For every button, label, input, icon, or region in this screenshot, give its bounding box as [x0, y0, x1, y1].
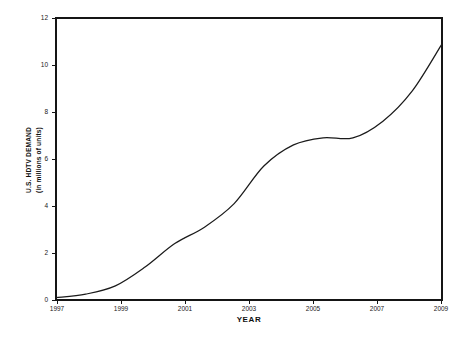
y-tick-label-4: 4 — [44, 202, 48, 209]
y-tick-label-2: 2 — [44, 249, 48, 256]
x-tick-label-2001: 2001 — [178, 305, 193, 312]
data-series-group — [56, 44, 442, 298]
x-tick-label-1997: 1997 — [50, 305, 65, 312]
y-tick-label-0: 0 — [44, 296, 48, 303]
x-tick-label-2009: 2009 — [434, 305, 449, 312]
chart-figure: 0 2 4 6 8 10 12 1997 1999 2001 2003 2005… — [0, 0, 470, 337]
y-axis-title-line-1: U.S. HDTV DEMAND — [25, 127, 32, 193]
y-tick-label-10: 10 — [41, 61, 49, 68]
hdtv-demand-line-chart: 0 2 4 6 8 10 12 1997 1999 2001 2003 2005… — [0, 0, 470, 337]
y-tick-label-12: 12 — [41, 14, 49, 21]
y-tick-label-8: 8 — [44, 108, 48, 115]
hdtv-demand-curve — [56, 44, 442, 298]
x-axis-ticks — [57, 300, 441, 304]
plot-frame — [56, 18, 442, 300]
x-axis-title: YEAR — [237, 315, 262, 324]
plot-border — [56, 18, 442, 300]
x-tick-label-2003: 2003 — [242, 305, 257, 312]
x-axis-tick-labels: 1997 1999 2001 2003 2005 2007 2009 — [50, 305, 449, 312]
y-axis-title-line-2: (in millions of units) — [35, 127, 43, 193]
y-tick-label-6: 6 — [44, 155, 48, 162]
x-tick-label-2005: 2005 — [306, 305, 321, 312]
x-tick-label-2007: 2007 — [370, 305, 385, 312]
y-axis-ticks — [52, 18, 56, 300]
y-axis-title: U.S. HDTV DEMAND (in millions of units) — [25, 127, 43, 193]
x-tick-label-1999: 1999 — [114, 305, 129, 312]
